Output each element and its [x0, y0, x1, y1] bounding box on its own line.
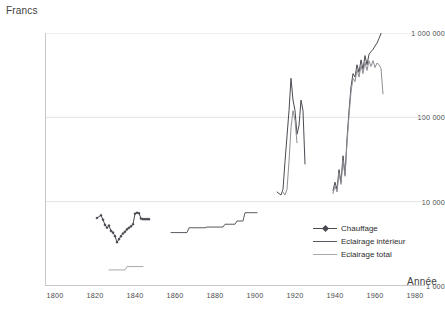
- series-line-0: [97, 213, 149, 243]
- legend-swatch-icon: [313, 237, 337, 247]
- x-tick-1840: 1840: [120, 291, 150, 300]
- x-tick-1980: 1980: [400, 291, 430, 300]
- series-line-1: [171, 213, 257, 233]
- x-tick-1960: 1960: [360, 291, 390, 300]
- x-tick-1920: 1920: [280, 291, 310, 300]
- series-line-2: [109, 267, 143, 270]
- x-tick-1800: 1800: [40, 291, 70, 300]
- x-tick-1820: 1820: [80, 291, 110, 300]
- series-line-3: [277, 78, 305, 195]
- legend-item-2[interactable]: Eclairage total: [313, 248, 405, 261]
- legend-item-0[interactable]: Chauffage: [313, 222, 405, 235]
- data-point: [101, 218, 104, 221]
- x-tick-1860: 1860: [160, 291, 190, 300]
- x-tick-1940: 1940: [320, 291, 350, 300]
- legend-label: Chauffage: [341, 224, 378, 234]
- legend-swatch-icon: [313, 250, 337, 260]
- y-axis-title: Francs: [6, 5, 38, 16]
- x-tick-1880: 1880: [200, 291, 230, 300]
- series-line-4: [283, 111, 297, 195]
- legend-label: Eclairage intérieur: [341, 237, 405, 247]
- chart-legend: ChauffageEclairage intérieurEclairage to…: [313, 222, 405, 261]
- data-point: [147, 218, 150, 221]
- legend-label: Eclairage total: [341, 250, 392, 260]
- x-tick-1900: 1900: [240, 291, 270, 300]
- series-line-5: [333, 33, 381, 190]
- legend-swatch-icon: [313, 224, 337, 234]
- chart-root: Francs Année 1 000 000100 00010 0001 000…: [0, 0, 445, 314]
- legend-item-1[interactable]: Eclairage intérieur: [313, 235, 405, 248]
- series-line-6: [333, 61, 383, 194]
